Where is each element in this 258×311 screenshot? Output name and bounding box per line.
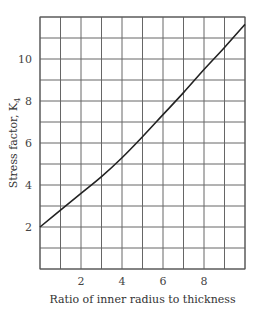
x-tick-label: 4 xyxy=(119,275,126,288)
chart: 2468246810Ratio of inner radius to thick… xyxy=(0,0,258,311)
x-tick-label: 6 xyxy=(160,275,167,288)
y-tick-label: 4 xyxy=(25,179,32,192)
x-tick-label: 2 xyxy=(78,275,85,288)
x-axis-label: Ratio of inner radius to thickness xyxy=(49,293,236,306)
y-tick-label: 8 xyxy=(25,95,32,108)
y-tick-label: 10 xyxy=(18,53,32,66)
y-tick-label: 6 xyxy=(25,137,32,150)
grid xyxy=(40,17,245,269)
y-tick-label: 2 xyxy=(25,221,32,234)
y-axis-label: Stress factor, K4 xyxy=(7,98,22,189)
x-tick-label: 8 xyxy=(201,275,208,288)
